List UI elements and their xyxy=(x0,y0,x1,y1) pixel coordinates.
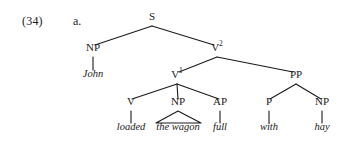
tree-leaf-thewagon: the wagon xyxy=(156,121,199,132)
tree-branch xyxy=(217,57,293,72)
node-category: PP xyxy=(290,68,302,80)
node-category: NP xyxy=(171,95,185,107)
node-category: V xyxy=(127,95,135,107)
tree-leaf-hay: hay xyxy=(314,121,329,132)
tree-node-np1: NP xyxy=(86,42,100,53)
tree-leaf-loaded: loaded xyxy=(117,121,146,132)
tree-leaf-full: full xyxy=(213,121,227,132)
node-bar-level: 2 xyxy=(219,39,223,48)
node-category: V xyxy=(171,68,179,80)
tree-node-s: S xyxy=(149,11,155,22)
node-category: V xyxy=(211,41,219,53)
tree-node-ap: AP xyxy=(213,96,227,107)
tree-node-v2: V2 xyxy=(211,42,223,53)
tree-branch xyxy=(179,57,217,72)
tree-leaf-john: John xyxy=(83,68,103,79)
tree-branch xyxy=(270,84,296,99)
node-category: AP xyxy=(213,95,227,107)
tree-branch xyxy=(152,26,214,45)
tree-node-np3: NP xyxy=(315,96,329,107)
tree-node-v1: V1 xyxy=(171,69,183,80)
node-bar-level: 1 xyxy=(179,66,183,75)
tree-node-pp: PP xyxy=(290,69,302,80)
tree-node-p: P xyxy=(266,96,272,107)
node-category: P xyxy=(266,95,272,107)
tree-node-v: V xyxy=(127,96,135,107)
branch-group xyxy=(93,26,322,123)
node-category: NP xyxy=(86,41,100,53)
tree-branch xyxy=(95,26,152,45)
node-category: S xyxy=(149,10,155,22)
figure-canvas: (34) a. SNPV2V1PPVNPAPPNP Johnloadedthe … xyxy=(0,0,342,143)
tree-node-np2: NP xyxy=(171,96,185,107)
node-category: NP xyxy=(315,95,329,107)
tree-leaf-with: with xyxy=(260,121,278,132)
